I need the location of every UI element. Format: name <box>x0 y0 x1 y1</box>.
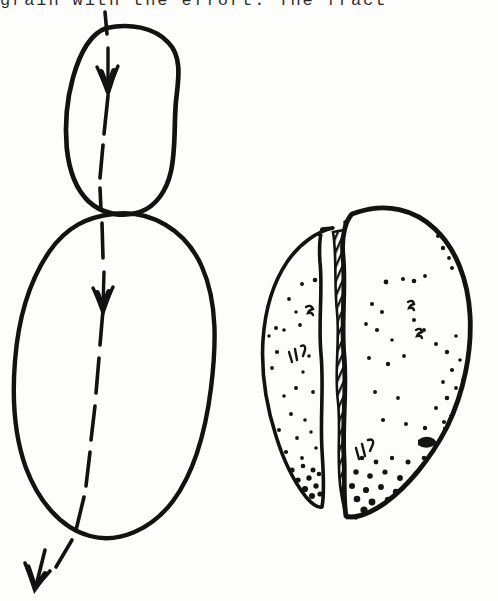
right-cotyledon <box>343 208 471 517</box>
arrowhead-upper <box>97 48 118 90</box>
arrowhead-exit <box>25 550 50 588</box>
dashed-axis-line <box>56 12 108 567</box>
arrowhead-middle <box>93 272 113 309</box>
figure-right-split-seed <box>260 206 470 525</box>
figure-left-whole-seed <box>14 12 215 588</box>
lower-ovoid-outline <box>14 213 215 538</box>
line-drawing-canvas <box>0 0 498 601</box>
scanned-page: grain with the effort. The fract <box>0 0 498 601</box>
upper-ovoid-outline <box>66 26 178 215</box>
